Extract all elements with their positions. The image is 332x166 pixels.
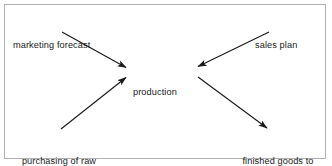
node-finished-goods-to-dispatch-warehouse: finished goods to dispatch warehouse: [229, 133, 327, 166]
node-marketing-forecast-label: marketing forecast: [13, 40, 90, 52]
node-purchasing-label-line-1: purchasing of raw: [11, 156, 107, 166]
node-production: production: [133, 64, 177, 122]
node-finished-goods-label-line-1: finished goods to: [229, 156, 327, 166]
diagram-canvas: marketing forecast sales plan production…: [0, 0, 332, 166]
node-purchasing-of-raw-materials: purchasing of raw materials: [11, 133, 107, 166]
node-sales-plan: sales plan: [255, 17, 297, 75]
node-marketing-forecast: marketing forecast: [13, 17, 90, 75]
node-production-label: production: [133, 87, 177, 99]
arrow-purchasing-to-production: [61, 78, 126, 130]
arrow-production-to-finished-goods: [198, 77, 267, 128]
node-sales-plan-label: sales plan: [255, 40, 297, 52]
